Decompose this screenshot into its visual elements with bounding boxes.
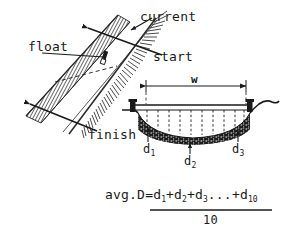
formula-plus-1: +d [166,187,182,202]
plan-view-group [26,11,167,138]
d3-subscript: 3 [239,149,244,158]
label-current: current [140,10,196,23]
formula-sub-10: 10 [248,195,258,204]
d2-subscript: 2 [191,161,196,170]
label-depth-d1: d1 [143,143,155,158]
right-bank-ground-line [250,101,279,113]
label-start: start [153,50,193,63]
label-width-w: w [191,74,198,85]
formula-ellipsis: ...+d [208,187,248,202]
diagram-canvas: float current start finish w d1 d2 d3 av… [0,0,288,237]
formula-prefix: avg.D=d [105,187,161,202]
d1-subscript: 1 [150,149,155,158]
label-finish: finish [88,128,136,141]
label-depth-d2: d2 [184,155,196,170]
label-depth-d3: d3 [232,143,244,158]
formula-numerator: avg.D=d1+d2+d3...+d10 [105,188,258,204]
measuring-tape-icon [133,105,250,110]
left-bank-hatched [26,15,130,123]
formula-denominator: 10 [203,214,218,226]
formula-plus-2: +d [187,187,203,202]
label-float: float [28,40,68,53]
